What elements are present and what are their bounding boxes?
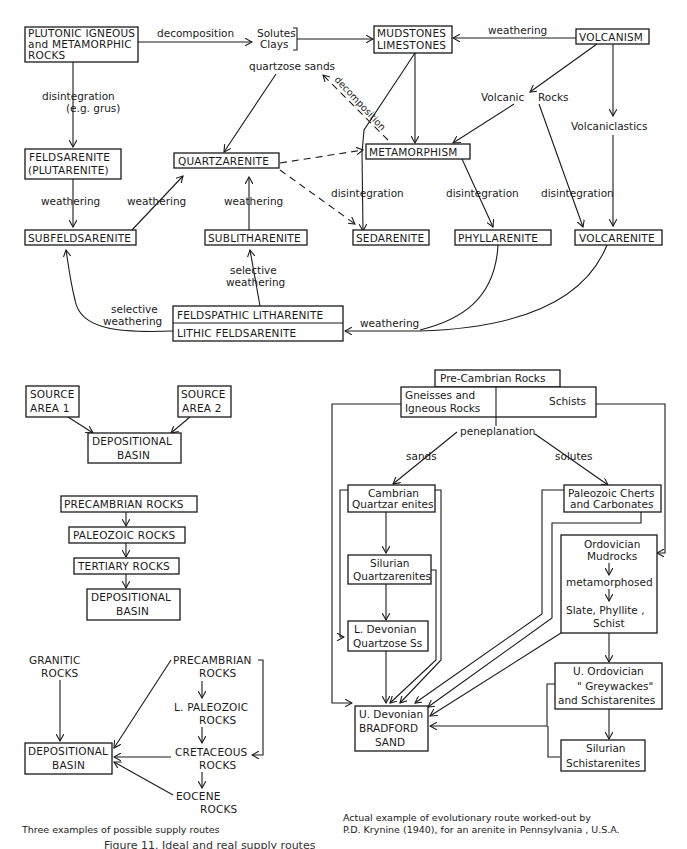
svg-text:Silurian: Silurian [586, 742, 625, 754]
svg-text:Silurian: Silurian [370, 557, 409, 569]
svg-text:EOCENE: EOCENE [176, 790, 221, 802]
svg-text:ROCKS: ROCKS [199, 714, 237, 726]
krynine-example: Pre-Cambrian Rocks Gneisses and Igneous … [332, 370, 665, 835]
svg-text:Rocks: Rocks [538, 91, 569, 103]
svg-text:weathering: weathering [224, 195, 283, 207]
svg-text:LITHIC FELDSARENITE: LITHIC FELDSARENITE [177, 327, 296, 339]
svg-text:and Schistarenites: and Schistarenites [558, 694, 655, 706]
svg-text:U. Devonian: U. Devonian [359, 708, 423, 720]
svg-text:" Greywackes": " Greywackes" [577, 680, 653, 692]
svg-text:metamorphosed: metamorphosed [566, 576, 653, 588]
svg-text:Mudrocks: Mudrocks [587, 550, 637, 562]
svg-text:L. PALEOZOIC: L. PALEOZOIC [174, 701, 248, 713]
label-decomposition: decomposition [157, 27, 234, 39]
svg-text:PHYLLARENITE: PHYLLARENITE [458, 232, 538, 244]
svg-text:Pre-Cambrian Rocks: Pre-Cambrian Rocks [440, 372, 545, 384]
svg-text:Quartzar enites: Quartzar enites [352, 498, 433, 510]
svg-text:(e.g. grus): (e.g. grus) [66, 102, 120, 114]
box-quartzarenite: QUARTZARENITE [174, 153, 279, 168]
svg-text:GRANITIC: GRANITIC [29, 654, 81, 666]
svg-text:DEPOSITIONAL: DEPOSITIONAL [91, 591, 171, 603]
svg-text:U. Ordovician: U. Ordovician [573, 665, 644, 677]
svg-text:Quartzose Ss: Quartzose Ss [353, 637, 422, 649]
svg-text:AREA 2: AREA 2 [182, 402, 222, 414]
svg-text:disintegration: disintegration [541, 187, 614, 199]
box-sedarenite: SEDARENITE [353, 230, 429, 245]
svg-text:weathering: weathering [488, 24, 547, 36]
svg-text:DEPOSITIONAL: DEPOSITIONAL [28, 745, 108, 757]
svg-text:Volcaniclastics: Volcaniclastics [571, 120, 647, 132]
svg-text:Volcanic: Volcanic [481, 91, 524, 103]
svg-text:disintegration: disintegration [446, 187, 519, 199]
svg-text:AREA 1: AREA 1 [30, 402, 70, 414]
box-feldsarenite: FELDSARENITE (PLUTARENITE) [25, 149, 121, 179]
box-plutonic-igneous: PLUTONIC IGNEOUS and METAMORPHIC ROCKS [25, 27, 138, 62]
svg-text:weathering: weathering [41, 195, 100, 207]
svg-text:PALEOZOIC ROCKS: PALEOZOIC ROCKS [73, 529, 175, 541]
svg-text:ROCKS: ROCKS [199, 759, 237, 771]
svg-text:VOLCARENITE: VOLCARENITE [579, 232, 655, 244]
svg-text:BASIN: BASIN [52, 759, 85, 771]
svg-text:CRETACEOUS: CRETACEOUS [175, 746, 248, 758]
svg-text:weathering: weathering [103, 315, 162, 327]
top-petrogenetic-diagram: PLUTONIC IGNEOUS and METAMORPHIC ROCKS d… [25, 24, 662, 341]
svg-text:weathering: weathering [127, 195, 186, 207]
svg-text:Schists: Schists [549, 395, 586, 407]
svg-text:QUARTZARENITE: QUARTZARENITE [178, 155, 269, 167]
svg-text:Clays: Clays [260, 38, 288, 50]
svg-text:weathering: weathering [226, 276, 285, 288]
svg-text:Slate, Phyllite ,: Slate, Phyllite , [566, 604, 644, 616]
svg-text:Quartzarenites: Quartzarenites [353, 570, 431, 582]
svg-text:FELDSARENITE: FELDSARENITE [29, 151, 110, 163]
figure-caption-cropped: Figure 11. Ideal and real supply routes [104, 840, 315, 849]
svg-text:SUBFELDSARENITE: SUBFELDSARENITE [28, 232, 131, 244]
example-2-chain: PRECAMBRIAN ROCKS PALEOZOIC ROCKS TERTIA… [61, 496, 197, 620]
svg-text:and Carbonates: and Carbonates [570, 498, 653, 510]
svg-text:peneplanation: peneplanation [460, 425, 535, 437]
svg-text:MUDSTONES: MUDSTONES [377, 27, 446, 39]
svg-text:VOLCANISM: VOLCANISM [579, 31, 643, 43]
svg-text:ROCKS: ROCKS [200, 803, 238, 815]
svg-text:sands: sands [406, 450, 437, 462]
box-phyllarenite: PHYLLARENITE [455, 230, 551, 245]
svg-text:ROCKS: ROCKS [41, 667, 79, 679]
svg-text:METAMORPHISM: METAMORPHISM [369, 146, 458, 158]
box-feldspathic-litharenite: FELDSPATHIC LITHARENITE LITHIC FELDSAREN… [173, 306, 343, 341]
svg-text:LIMESTONES: LIMESTONES [377, 39, 446, 51]
box-subfeldsarenite: SUBFELDSARENITE [25, 230, 136, 245]
svg-text:SEDARENITE: SEDARENITE [356, 232, 424, 244]
svg-text:decomposition: decomposition [333, 74, 389, 133]
svg-text:Gneisses and: Gneisses and [405, 389, 475, 401]
svg-text:ROCKS: ROCKS [199, 667, 237, 679]
example-3-multi: GRANITIC ROCKS DEPOSITIONAL BASIN PRECAM… [21, 654, 263, 835]
svg-text:PRECAMBRIAN ROCKS: PRECAMBRIAN ROCKS [64, 498, 184, 510]
svg-text:weathering: weathering [360, 317, 419, 329]
svg-text:disintegration: disintegration [331, 187, 404, 199]
svg-text:disintegration: disintegration [42, 90, 115, 102]
svg-text:Ordovician: Ordovician [584, 538, 640, 550]
svg-text:SUBLITHARENITE: SUBLITHARENITE [208, 232, 301, 244]
svg-text:quartzose sands: quartzose sands [249, 60, 335, 72]
svg-text:PRECAMBRIAN: PRECAMBRIAN [173, 654, 252, 666]
svg-text:DEPOSITIONAL: DEPOSITIONAL [92, 435, 172, 447]
svg-text:BASIN: BASIN [117, 449, 150, 461]
svg-text:ROCKS: ROCKS [28, 49, 66, 61]
svg-text:L. Devonian: L. Devonian [354, 623, 416, 635]
svg-text:SOURCE: SOURCE [181, 388, 226, 400]
example-1-two-sources: SOURCE AREA 1 SOURCE AREA 2 DEPOSITIONAL… [26, 386, 231, 463]
svg-text:selective: selective [230, 264, 277, 276]
svg-text:Schistarenites: Schistarenites [566, 757, 640, 769]
box-volcanism: VOLCANISM [576, 29, 649, 44]
left-caption: Three examples of possible supply routes [21, 824, 220, 835]
right-caption-line-1: Actual example of evolutionary route wor… [343, 812, 591, 823]
svg-text:SOURCE: SOURCE [30, 388, 75, 400]
svg-text:(PLUTARENITE): (PLUTARENITE) [28, 164, 109, 176]
svg-text:Schist: Schist [593, 617, 625, 629]
svg-text:TERTIARY ROCKS: TERTIARY ROCKS [77, 560, 170, 572]
svg-text:SAND: SAND [375, 736, 405, 748]
svg-text:BASIN: BASIN [116, 605, 149, 617]
svg-text:BRADFORD: BRADFORD [359, 722, 418, 734]
svg-text:selective: selective [111, 303, 158, 315]
svg-text:solutes: solutes [555, 450, 593, 462]
box-metamorphism: METAMORPHISM [366, 144, 470, 159]
